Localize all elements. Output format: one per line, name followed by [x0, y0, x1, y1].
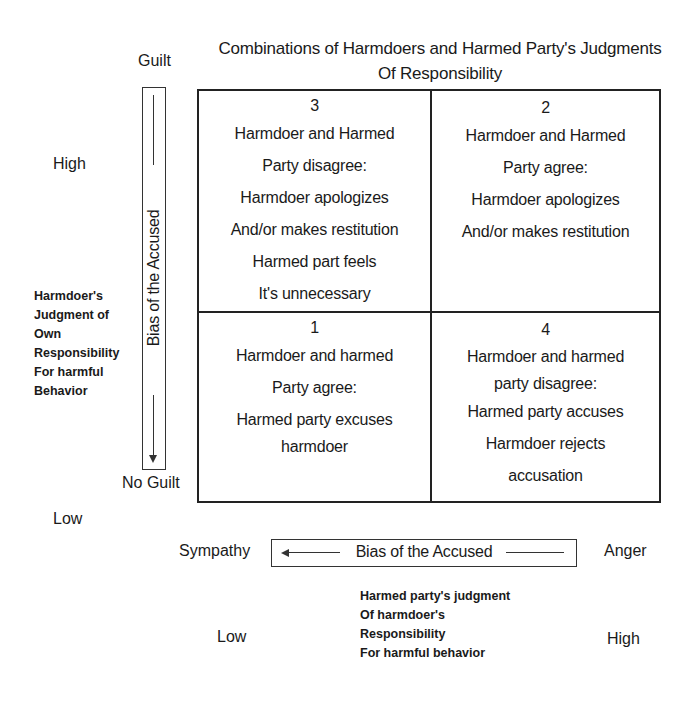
x-axis-anger-label: Anger — [604, 542, 647, 560]
vertical-bias-label: Bias of the Accused — [145, 210, 163, 347]
quadrant-line: Party disagree: — [199, 150, 430, 182]
quadrant-line: Harmdoer and Harmed — [431, 120, 660, 152]
y-axis-high-label: High — [53, 155, 86, 173]
horizontal-bias-text: Bias of the Accused — [356, 543, 493, 560]
quadrant-line: party disagree: — [431, 372, 660, 396]
quadrant-line: Harmed party accuses — [431, 396, 660, 428]
vertical-bias-line-top — [153, 95, 154, 165]
y-desc-line: Harmdoer's — [34, 287, 119, 306]
quadrant-line: Harmed part feels — [199, 246, 430, 278]
quadrant-1: 1 Harmdoer and harmed Party agree: Harme… — [199, 316, 430, 458]
quadrant-line: Party agree: — [431, 152, 660, 184]
y-desc-line: Responsibility — [34, 344, 119, 363]
x-axis-description: Harmed party's judgment Of harmdoer's Re… — [360, 587, 510, 663]
y-desc-line: Judgment of — [34, 306, 119, 325]
diagram-title: Combinations of Harmdoers and Harmed Par… — [200, 36, 680, 86]
x-axis-low-label: Low — [217, 628, 246, 646]
quadrant-line: Harmdoer apologizes — [431, 184, 660, 216]
x-desc-line: Of harmdoer's — [360, 606, 510, 625]
y-axis-no-guilt-label: No Guilt — [122, 474, 180, 492]
quadrant-2: 2 Harmdoer and Harmed Party agree: Harmd… — [431, 96, 660, 248]
grid-horizontal-divider — [197, 311, 661, 313]
quadrant-number: 1 — [199, 316, 430, 340]
quadrant-line: Harmed party excuses — [199, 404, 430, 436]
quadrant-line: And/or makes restitution — [199, 214, 430, 246]
y-desc-line: Own — [34, 325, 119, 344]
horizontal-bias-label: Bias of the Accused — [271, 541, 577, 563]
quadrant-number: 3 — [199, 94, 430, 118]
quadrant-line: Harmdoer and harmed — [431, 342, 660, 372]
y-axis-low-label: Low — [53, 510, 82, 528]
title-line-2: Of Responsibility — [200, 61, 680, 86]
y-axis-description: Harmdoer's Judgment of Own Responsibilit… — [34, 287, 119, 401]
quadrant-number: 2 — [431, 96, 660, 120]
x-axis-high-label: High — [607, 630, 640, 648]
quadrant-line: Party agree: — [199, 372, 430, 404]
quadrant-number: 4 — [431, 318, 660, 342]
quadrant-3: 3 Harmdoer and Harmed Party disagree: Ha… — [199, 94, 430, 310]
quadrant-line: harmdoer — [199, 436, 430, 458]
quadrant-line: It's unnecessary — [199, 278, 430, 310]
quadrant-line: Harmdoer rejects — [431, 428, 660, 460]
quadrant-4: 4 Harmdoer and harmed party disagree: Ha… — [431, 318, 660, 492]
quadrant-line: Harmdoer and Harmed — [199, 118, 430, 150]
quadrant-line: accusation — [431, 460, 660, 492]
x-desc-line: For harmful behavior — [360, 644, 510, 663]
x-desc-line: Harmed party's judgment — [360, 587, 510, 606]
quadrant-line: And/or makes restitution — [431, 216, 660, 248]
title-line-1: Combinations of Harmdoers and Harmed Par… — [200, 36, 680, 61]
y-desc-line: For harmful — [34, 363, 119, 382]
arrow-down-icon — [149, 455, 157, 463]
quadrant-line: Harmdoer and harmed — [199, 340, 430, 372]
y-desc-line: Behavior — [34, 382, 119, 401]
y-axis-guilt-label: Guilt — [138, 52, 171, 70]
quadrant-line: Harmdoer apologizes — [199, 182, 430, 214]
x-axis-sympathy-label: Sympathy — [179, 542, 250, 560]
x-desc-line: Responsibility — [360, 625, 510, 644]
vertical-bias-line-bottom — [153, 395, 154, 455]
